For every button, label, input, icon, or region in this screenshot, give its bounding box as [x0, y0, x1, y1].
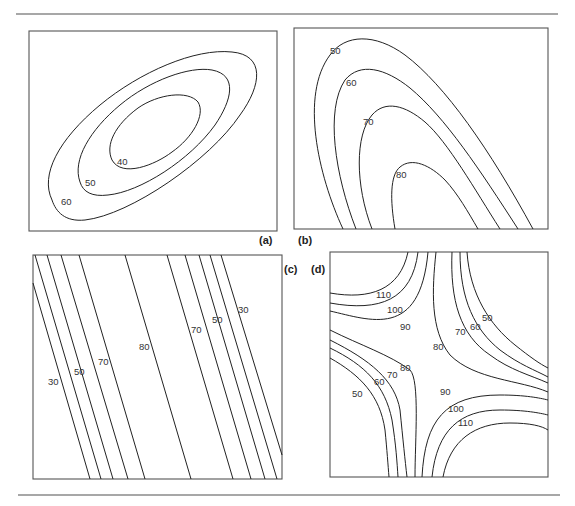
panel-b-label: (b): [298, 234, 312, 246]
contour-110: [330, 252, 408, 295]
panel-a: 40 50 60 (a): [29, 31, 277, 246]
contour-label: 50: [85, 177, 96, 188]
contour-label: 30: [238, 304, 249, 315]
panel-d: 110 100 90 80 70 60 50 80 70 60 50 90 10…: [311, 252, 548, 477]
contour-label: 80: [400, 362, 411, 373]
contour-figure: 40 50 60 (a) 50 60 70 80 (b) 30 50: [0, 0, 575, 506]
contour-label: 70: [98, 356, 109, 367]
contour-60: [334, 69, 518, 229]
contour-50: [78, 69, 230, 195]
contour-label: 50: [212, 314, 223, 325]
contour-line: [35, 255, 101, 479]
contour-label: 50: [482, 312, 493, 323]
contour-label: 70: [363, 116, 374, 127]
panel-c: 30 50 70 80 70 50 30 (c): [33, 255, 298, 479]
contour-line: [185, 255, 251, 479]
contour-label: 110: [376, 289, 391, 300]
panel-b-frame: [294, 28, 548, 229]
contour-label: 40: [117, 156, 128, 167]
contour-70: [452, 252, 548, 383]
contour-label: 80: [139, 341, 150, 352]
contour-90: [330, 252, 428, 319]
contour-label: 70: [387, 369, 398, 380]
contour-label: 80: [396, 169, 407, 180]
contour-60: [460, 252, 548, 377]
contour-label: 60: [346, 77, 357, 88]
contour-label: 90: [440, 386, 451, 397]
contour-line: [210, 255, 277, 479]
contour-80: [330, 330, 416, 477]
contour-50: [467, 252, 548, 368]
contour-label: 50: [330, 45, 341, 56]
contour-label: 100: [387, 304, 403, 315]
panel-a-label: (a): [259, 234, 273, 246]
contour-label: 30: [48, 376, 59, 387]
contour-label: 70: [191, 324, 202, 335]
contour-label: 60: [61, 196, 72, 207]
contour-110: [443, 423, 548, 477]
contour-line: [61, 255, 128, 479]
panel-d-label: (d): [311, 263, 325, 275]
contour-line: [167, 255, 233, 479]
contour-100: [432, 410, 548, 477]
contour-label: 110: [458, 417, 473, 428]
contour-100: [330, 252, 418, 306]
contour-line: [33, 283, 90, 479]
contour-label: 90: [400, 321, 411, 332]
panel-b: 50 60 70 80 (b): [294, 28, 548, 246]
contour-line: [221, 255, 282, 455]
contour-label: 70: [455, 326, 466, 337]
contour-90: [422, 395, 548, 477]
panel-d-frame: [330, 252, 548, 477]
contour-label: 60: [374, 376, 385, 387]
contour-label: 100: [448, 403, 464, 414]
contour-label: 50: [352, 388, 363, 399]
contour-50: [314, 39, 533, 229]
contour-label: 60: [470, 321, 481, 332]
contour-label: 50: [74, 366, 85, 377]
contour-label: 80: [433, 341, 444, 352]
panel-c-label: (c): [284, 263, 298, 275]
